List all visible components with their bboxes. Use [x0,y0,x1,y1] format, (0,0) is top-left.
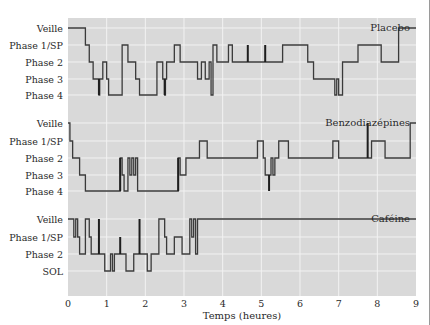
x-tick-label: 6 [297,298,303,309]
panel-title: Placebo [370,22,410,33]
hypnogram-chart: VeillePhase 1/SPPhase 2Phase 3Phase 4Pla… [0,0,430,325]
x-tick-label: 5 [258,298,264,309]
y-level-label: Phase 2 [25,153,63,164]
x-tick-label: 7 [336,298,342,309]
x-tick-label: 0 [65,298,71,309]
y-level-label: Veille [36,118,64,129]
y-level-label: Veille [36,214,64,225]
panel-title: Caféine [371,213,410,224]
panel-title: Benzodiazépines [325,117,410,128]
y-level-label: Phase 3 [25,74,63,85]
y-level-label: Phase 4 [25,186,63,197]
y-level-label: Phase 4 [25,90,63,101]
x-tick-label: 2 [142,298,148,309]
x-tick-label: 8 [374,298,380,309]
x-tick-label: 4 [220,298,226,309]
y-level-label: Phase 1/SP [9,40,63,51]
y-level-label: Phase 1/SP [9,136,63,147]
x-tick-label: 1 [104,298,110,309]
y-level-label: SOL [42,266,63,277]
x-tick-label: 9 [413,298,419,309]
y-level-label: Phase 1/SP [9,232,63,243]
y-level-label: Phase 3 [25,170,63,181]
x-axis-title: Temps (heures) [203,310,282,321]
x-axis: 0123456789 [65,298,419,309]
x-tick-label: 3 [181,298,187,309]
y-level-label: Veille [36,23,64,34]
y-level-label: Phase 2 [25,57,63,68]
y-level-label: Phase 2 [25,249,63,260]
